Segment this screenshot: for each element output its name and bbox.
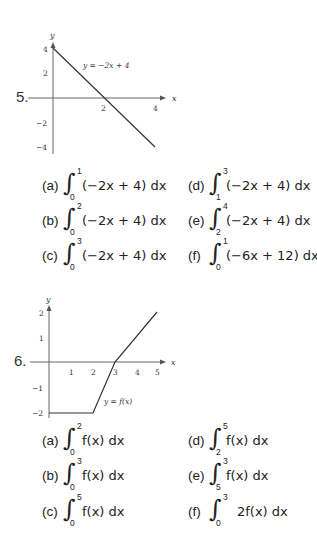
integrand: f(x) dx [226,433,269,448]
part-6f: (f) ∫ 3 0 2f(x) dx [170,496,317,526]
y-tick: 4 [43,45,48,54]
part-5a: (a) ∫ 1 0 (−2x + 4) dx [0,170,160,200]
integrand: (−2x + 4) dx [226,178,311,193]
x-tick: 4 [135,368,140,377]
lower-limit: 0 [70,518,75,528]
integrand: (−2x + 4) dx [82,178,167,193]
integrand: f(x) dx [226,468,269,483]
upper-limit: 3 [223,166,228,176]
graph-problem-6: x y 1 2 3 4 5 2 1 −1 −2 y = f(x) [0,290,200,420]
y-tick: 1 [39,334,44,343]
part-label: (a) [42,178,59,193]
upper-limit: 1 [223,236,228,246]
y-axis-label: y [49,31,55,40]
part-6c: (c) ∫ 5 0 f(x) dx [0,496,160,526]
y-tick: −2 [36,119,47,128]
y-tick: 2 [39,309,44,318]
upper-limit: 3 [223,456,228,466]
lower-limit: 0 [70,262,75,272]
integrand: (−6x + 12) dx [226,248,317,263]
x-tick: 4 [153,104,158,113]
part-label: (b) [42,213,59,228]
curve-label: y = −2x + 4 [82,61,130,70]
upper-limit: 2 [77,421,82,431]
curve-label: y = f(x) [103,397,132,406]
part-label: (b) [42,468,59,483]
lower-limit: 0 [70,447,75,457]
part-5e: (e) ∫ 4 2 (−2x + 4) dx [170,205,317,235]
part-6d: (d) ∫ 5 2 f(x) dx [170,425,317,455]
part-6e: (e) ∫ 3 5 f(x) dx [170,460,317,490]
integrand: f(x) dx [82,433,125,448]
x-tick: 5 [155,368,160,377]
upper-limit: 5 [223,421,228,431]
x-tick: 2 [101,104,106,113]
upper-limit: 2 [77,201,82,211]
lower-limit: 0 [216,518,221,528]
x-axis-label: x [171,358,176,367]
y-tick: −4 [36,143,47,152]
lower-limit: 0 [70,192,75,202]
lower-limit: 1 [216,192,221,202]
part-label: (e) [188,213,205,228]
lower-limit: 0 [70,482,75,492]
lower-limit: 0 [216,262,221,272]
integrand: f(x) dx [82,468,125,483]
part-6a: (a) ∫ 2 0 f(x) dx [0,425,160,455]
part-label: (c) [42,248,58,263]
upper-limit: 1 [77,166,82,176]
lower-limit: 0 [70,227,75,237]
upper-limit: 3 [223,492,228,502]
x-tick: 1 [69,368,74,377]
integrand: (−2x + 4) dx [82,248,167,263]
integrand: (−2x + 4) dx [82,213,167,228]
y-axis-label: y [45,295,51,304]
upper-limit: 4 [223,201,228,211]
y-tick: −1 [32,384,43,393]
part-5c: (c) ∫ 3 0 (−2x + 4) dx [0,240,160,270]
lower-limit: 2 [216,447,221,457]
lower-limit: 2 [216,227,221,237]
part-label: (f) [188,504,201,519]
part-5f: (f) ∫ 1 0 (−6x + 12) dx [170,240,317,270]
part-label: (d) [188,433,205,448]
x-tick: 3 [113,368,118,377]
integrand: (−2x + 4) dx [226,213,311,228]
integrand: 2f(x) dx [237,504,288,519]
x-axis-label: x [172,94,177,103]
integrand: f(x) dx [82,504,125,519]
part-label: (c) [42,504,58,519]
lower-limit: 5 [216,482,221,492]
graph-problem-5: x y 2 4 4 2 −2 −4 y = −2x + 4 [0,0,200,160]
part-5b: (b) ∫ 2 0 (−2x + 4) dx [0,205,160,235]
y-tick: 2 [43,69,48,78]
part-label: (e) [188,468,205,483]
upper-limit: 3 [77,236,82,246]
part-label: (d) [188,178,205,193]
curve-line [49,312,157,413]
part-6b: (b) ∫ 3 0 f(x) dx [0,460,160,490]
upper-limit: 3 [77,456,82,466]
part-5d: (d) ∫ 3 1 (−2x + 4) dx [170,170,317,200]
part-label: (a) [42,433,59,448]
part-label: (f) [188,248,201,263]
upper-limit: 5 [77,492,82,502]
y-tick: −2 [32,409,43,418]
x-tick: 2 [91,368,96,377]
